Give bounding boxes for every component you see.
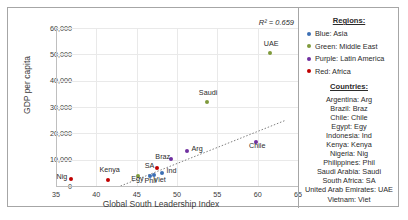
data-point-label: Saudi	[199, 88, 217, 97]
x-tick-label: 50	[164, 190, 190, 199]
legend-region-label: Green: Middle East	[315, 42, 377, 51]
legend-region-item[interactable]: Purple: Latin America	[307, 54, 395, 63]
data-point-label: Braz	[155, 152, 170, 161]
legend-panel: Regions: Blue: AsiaGreen: Middle EastPur…	[298, 8, 399, 208]
legend-region-item[interactable]: Green: Middle East	[307, 42, 395, 51]
x-tick-label: 35	[43, 190, 69, 199]
plot-area: GDP per capita 010,00020,00030,00040,000…	[8, 8, 298, 208]
x-tick-label: 55	[204, 190, 230, 199]
y-axis-line	[56, 28, 57, 186]
legend-region-item[interactable]: Red: Africa	[307, 67, 395, 76]
legend-country-item: Nigeria: Nig	[303, 149, 395, 158]
legend-country-item: Egypt: Egy	[303, 122, 395, 131]
gridline-vertical	[137, 28, 138, 186]
legend-country-item: Argentina: Arg	[303, 95, 395, 104]
legend-country-item: Vietnam: Viet	[303, 195, 395, 204]
legend-color-dot-icon	[307, 57, 311, 61]
regions-list: Blue: AsiaGreen: Middle EastPurple: Lati…	[303, 29, 395, 76]
x-tick-label: 40	[83, 190, 109, 199]
gridline-vertical	[217, 28, 218, 186]
legend-color-dot-icon	[307, 69, 311, 73]
legend-color-dot-icon	[307, 44, 311, 48]
data-point-label: Egy	[131, 174, 143, 183]
gridlines	[56, 28, 298, 186]
legend-region-label: Red: Africa	[315, 67, 351, 76]
r-squared-annotation: R² = 0.659	[208, 18, 294, 27]
legend-region-label: Purple: Latin America	[315, 54, 384, 63]
legend-country-item: Chile: Chile	[303, 113, 395, 122]
data-point[interactable]	[268, 51, 272, 55]
data-point-label: SA	[145, 161, 155, 170]
legend-country-item: Indonesia: Ind	[303, 131, 395, 140]
data-point-label: Ind	[166, 166, 176, 175]
legend-country-item: Kenya: Kenya	[303, 140, 395, 149]
legend-region-label: Blue: Asia	[315, 29, 347, 38]
y-axis-title: GDP per capita	[22, 30, 32, 140]
gridline-vertical	[96, 28, 97, 186]
data-point-label: Nig	[57, 172, 68, 181]
gridline-vertical	[177, 28, 178, 186]
countries-heading: Countries:	[303, 82, 395, 91]
x-tick-label: 60	[245, 190, 271, 199]
legend-country-item: Brazil: Braz	[303, 104, 395, 113]
x-tick-label: 45	[124, 190, 150, 199]
x-axis-line	[56, 186, 298, 187]
gridline-vertical	[258, 28, 259, 186]
data-point-label: Arg	[191, 144, 202, 153]
data-point-label: Chile	[249, 141, 265, 150]
legend-color-dot-icon	[307, 32, 311, 36]
legend-country-item: South Africa: SA	[303, 176, 395, 185]
regions-heading: Regions:	[303, 16, 395, 25]
data-point[interactable]	[205, 100, 209, 104]
legend-region-item[interactable]: Blue: Asia	[307, 29, 395, 38]
chart-frame: GDP per capita 010,00020,00030,00040,000…	[7, 7, 399, 207]
data-point-label: Viet	[154, 175, 166, 184]
legend-country-item: Philippines: Phil	[303, 158, 395, 167]
countries-list: Argentina: ArgBrazil: BrazChile: ChileEg…	[303, 95, 395, 204]
legend-country-item: Saudi Arabia: Saudi	[303, 167, 395, 176]
data-point-label: UAE	[264, 39, 279, 48]
scatter-chart-figure: GDP per capita 010,00020,00030,00040,000…	[0, 0, 408, 220]
data-point-label: Kenya	[99, 165, 119, 174]
legend-country-item: United Arab Emirates: UAE	[303, 185, 395, 194]
x-axis-title: Global South Leadership Index	[36, 199, 286, 209]
